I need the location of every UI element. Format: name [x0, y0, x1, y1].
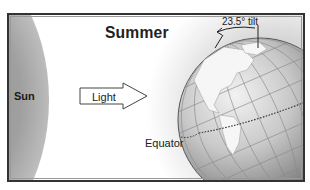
diagram-frame: Summer Sun Light 23.5° tilt Equator [7, 13, 305, 182]
light-label: Light [92, 91, 116, 103]
sun-label: Sun [14, 90, 35, 102]
diagram-title: Summer [105, 23, 169, 43]
tilt-label: 23.5° tilt [222, 15, 258, 27]
equator-label: Equator [145, 137, 184, 149]
